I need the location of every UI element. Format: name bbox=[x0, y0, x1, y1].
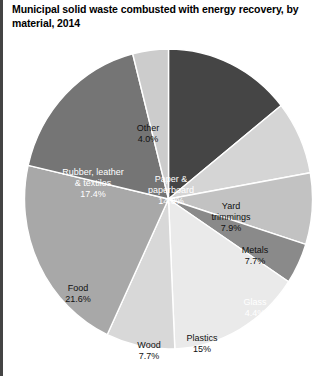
pie-slices-group bbox=[25, 49, 313, 349]
pie-chart: Paper &paperboard14.3%Yardtrimmings7.9%M… bbox=[24, 48, 313, 350]
chart-title: Municipal solid waste combusted with ene… bbox=[12, 3, 314, 31]
chart-figure: Municipal solid waste combusted with ene… bbox=[0, 0, 323, 376]
pie-slice-label-value: 7.7% bbox=[137, 351, 160, 362]
pie-chart-svg bbox=[24, 48, 313, 350]
